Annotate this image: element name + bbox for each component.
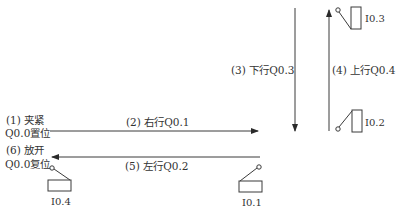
limit-switch-i04-icon [48,166,71,191]
step-4-label: (4) 上行Q0.4 [332,64,396,77]
switch-i02-label: I0.2 [365,116,385,129]
step-1-label-line1: (1) 夹紧 [6,114,44,127]
step-5-label: (5) 左行Q0.2 [125,160,189,173]
step-2-label: (2) 右行Q0.1 [126,116,190,129]
step-1-label-line2: Q0.0置位 [5,127,50,140]
step-3-label: (3) 下行Q0.3 [231,64,295,77]
switch-i03-label: I0.3 [365,12,385,25]
limit-switch-i01-icon [239,165,262,192]
limit-switch-i03-icon [336,7,361,29]
step-6-label-line2: Q0.0复位 [5,158,50,171]
step-6-label-line1: (6) 放开 [6,144,44,157]
switch-i01-label: I0.1 [242,196,262,209]
limit-switch-i02-icon [336,110,362,132]
switch-i04-label: I0.4 [51,195,71,208]
